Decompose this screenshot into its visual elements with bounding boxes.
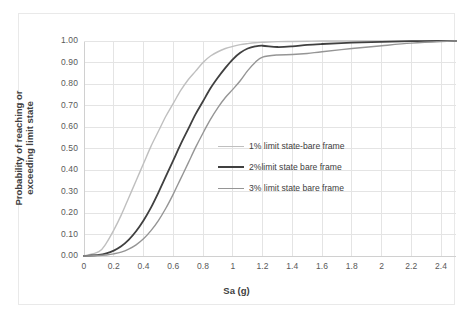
legend-swatch-1: [218, 146, 244, 147]
x-tick-label: 1.6: [307, 261, 337, 271]
legend-item-2: 2%limit state bare frame: [218, 160, 342, 174]
x-tick-label: 1.4: [277, 261, 307, 271]
legend-item-3: 3% limit state bare frame: [218, 181, 344, 195]
x-tick-label: 0: [69, 261, 99, 271]
x-tick-label: 0.2: [99, 261, 129, 271]
x-tick-label: 1: [218, 261, 248, 271]
y-axis-title: Probability of reaching or exceeding lim…: [13, 48, 35, 248]
legend-item-1: 1% limit state-bare frame: [218, 139, 345, 153]
x-tick-label: 1.2: [248, 261, 278, 271]
x-tick-label: 0.4: [129, 261, 159, 271]
x-tick-label: 2.4: [426, 261, 456, 271]
y-axis-title-line2: exceeding limit state: [24, 48, 35, 248]
y-tick-label: 0.40: [44, 164, 78, 174]
legend-label-2: 2%limit state bare frame: [249, 162, 342, 172]
y-tick-label: 0.80: [44, 78, 78, 88]
y-tick-label: 0.60: [44, 121, 78, 131]
x-tick-label: 0.8: [188, 261, 218, 271]
x-axis-title: Sa (g): [0, 285, 473, 296]
y-tick-label: 0.30: [44, 186, 78, 196]
y-tick-label: 0.70: [44, 100, 78, 110]
legend-label-1: 1% limit state-bare frame: [249, 141, 345, 151]
legend-label-3: 3% limit state bare frame: [249, 183, 344, 193]
y-tick-label: 0.90: [44, 57, 78, 67]
y-axis-title-line1: Probability of reaching or: [13, 48, 24, 248]
y-tick-label: 0.50: [44, 143, 78, 153]
legend-swatch-2: [218, 166, 244, 168]
x-tick-label: 1.8: [337, 261, 367, 271]
y-tick-label: 0.10: [44, 229, 78, 239]
x-tick-label: 2.2: [396, 261, 426, 271]
legend-swatch-3: [218, 188, 244, 189]
x-tick-label: 2: [367, 261, 397, 271]
y-tick-label: 0.20: [44, 207, 78, 217]
y-tick-label: 0.00: [44, 250, 78, 260]
y-tick-label: 1.00: [44, 35, 78, 45]
x-tick-label: 0.6: [158, 261, 188, 271]
